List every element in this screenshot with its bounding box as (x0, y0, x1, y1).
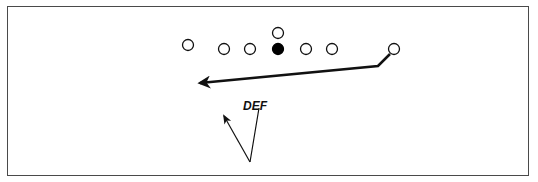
receiver-circle (389, 44, 400, 55)
receiver-route-arrow (200, 54, 390, 83)
player-circle (301, 44, 312, 55)
player-circle (219, 44, 230, 55)
defender-line (250, 108, 259, 162)
offensive-line (183, 28, 400, 55)
play-diagram: DEF (0, 0, 538, 182)
player-circle (245, 44, 256, 55)
player-circle (183, 40, 194, 51)
defender-arrow (224, 116, 250, 162)
quarterback-circle (273, 28, 284, 39)
center-player-filled (273, 44, 284, 55)
player-circle (327, 44, 338, 55)
defender-label: DEF (243, 99, 268, 113)
